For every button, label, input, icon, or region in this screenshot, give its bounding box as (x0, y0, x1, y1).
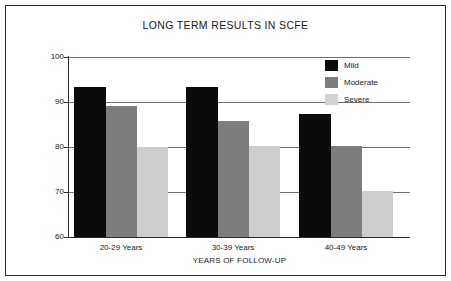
x-tick-label-20-29: 20-29 Years (81, 243, 161, 252)
legend-swatch-severe-icon (325, 94, 338, 105)
chart-figure: LONG TERM RESULTS IN SCFE IOWA HIP RATIN… (0, 0, 451, 281)
bar-mild-20-29 (74, 87, 106, 237)
y-tick-label-80: 80 (42, 142, 64, 151)
y-tick-label-60: 60 (42, 232, 64, 241)
x-axis-title: YEARS OF FOLLOW-UP (69, 256, 410, 265)
bar-severe-30-39 (249, 146, 280, 237)
y-tick-label-90: 90 (42, 97, 64, 106)
bar-severe-20-29 (137, 147, 168, 237)
legend-swatch-mild-icon (325, 60, 338, 71)
legend-swatch-moderate-icon (325, 77, 338, 88)
bar-moderate-20-29 (106, 106, 137, 237)
chart-legend: Mild Moderate Severe (325, 58, 417, 109)
legend-item-severe: Severe (325, 92, 417, 107)
x-tick-label-40-49: 40-49 Years (306, 243, 386, 252)
legend-label-mild: Mild (344, 61, 359, 70)
bar-mild-40-49 (299, 114, 331, 237)
legend-label-severe: Severe (344, 95, 369, 104)
legend-item-moderate: Moderate (325, 75, 417, 90)
bar-mild-30-39 (186, 87, 218, 237)
bar-moderate-40-49 (331, 146, 362, 237)
bar-severe-40-49 (362, 191, 393, 237)
gridline-60-baseline (69, 237, 410, 238)
y-tick-label-70: 70 (42, 187, 64, 196)
legend-label-moderate: Moderate (344, 78, 378, 87)
chart-title: LONG TERM RESULTS IN SCFE (0, 19, 451, 31)
y-tick-label-100: 100 (42, 52, 64, 61)
bar-moderate-30-39 (218, 121, 249, 237)
legend-item-mild: Mild (325, 58, 417, 73)
x-tick-label-30-39: 30-39 Years (193, 243, 273, 252)
